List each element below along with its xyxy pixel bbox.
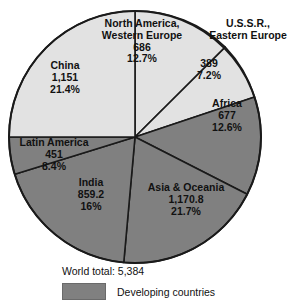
slice-value: 389: [186, 58, 232, 70]
slice-name-line2: Western Europe: [88, 30, 196, 42]
legend-swatch-developing-countries: [62, 283, 106, 300]
slice-percent: 12.6%: [196, 122, 258, 134]
world-total-text: World total: 5,384: [62, 265, 144, 277]
slice-name-line2: Eastern Europe: [196, 30, 300, 42]
slice-label-china: China 1,151 21.4%: [22, 60, 108, 95]
slice-percent: 16%: [52, 201, 130, 213]
slice-label-ussr-eastern-europe: U.S.S.R., Eastern Europe: [196, 18, 300, 42]
slice-value: 451: [2, 149, 106, 161]
slice-label-india: India 859.2 16%: [52, 177, 130, 212]
pie-chart-figure: North America, Western Europe 686 12.7% …: [0, 0, 306, 304]
slice-label-latin-america: Latin America 451 8.4%: [2, 137, 106, 172]
slice-value-block-ussr: 389 7.2%: [186, 58, 232, 82]
slice-name-line1: Asia & Oceania: [134, 182, 238, 194]
slice-name-line1: North America,: [88, 18, 196, 30]
slice-name-line1: U.S.S.R.,: [196, 18, 300, 30]
slice-label-asia-oceania: Asia & Oceania 1,170.8 21.7%: [134, 182, 238, 217]
slice-name-line1: Latin America: [2, 137, 106, 149]
slice-percent: 8.4%: [2, 161, 106, 173]
slice-label-north-america-western-europe: North America, Western Europe 686 12.7%: [88, 18, 196, 65]
legend-label-developing-countries: Developing countries: [117, 286, 215, 298]
slice-percent: 7.2%: [186, 70, 232, 82]
slice-percent: 21.4%: [22, 84, 108, 96]
slice-name-line1: India: [52, 177, 130, 189]
slice-value: 1,151: [22, 72, 108, 84]
slice-name-line1: China: [22, 60, 108, 72]
chart-legend: Developing countries: [62, 283, 215, 300]
slice-value: 1,170.8: [134, 194, 238, 206]
slice-percent: 21.7%: [134, 206, 238, 218]
slice-name-line1: Africa: [196, 98, 258, 110]
slice-label-africa: Africa 677 12.6%: [196, 98, 258, 133]
slice-value: 859.2: [52, 189, 130, 201]
slice-value: 677: [196, 110, 258, 122]
